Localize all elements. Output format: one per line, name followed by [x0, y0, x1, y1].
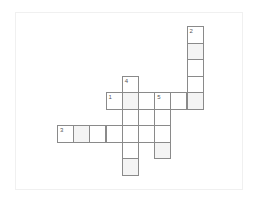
grid-cell[interactable]: [138, 109, 155, 127]
grid-cell[interactable]: [138, 92, 155, 110]
grid-cell[interactable]: [122, 158, 139, 176]
grid-cell[interactable]: [154, 125, 171, 143]
grid-cell[interactable]: [170, 92, 187, 110]
grid-cell[interactable]: [122, 125, 139, 143]
clue-number: 5: [157, 94, 160, 100]
clue-number: 2: [190, 28, 193, 34]
grid-cell[interactable]: [154, 109, 171, 127]
clue-number: 4: [125, 78, 128, 84]
grid-cell[interactable]: [138, 125, 155, 143]
grid-cell[interactable]: [187, 43, 204, 61]
grid-cell[interactable]: 5: [154, 92, 171, 110]
grid-cell[interactable]: [106, 125, 123, 143]
grid-cell[interactable]: [187, 59, 204, 77]
grid-cell[interactable]: [187, 92, 204, 110]
clue-number: 3: [60, 127, 63, 133]
grid-cell[interactable]: 1: [106, 92, 123, 110]
grid-cell[interactable]: [154, 142, 171, 160]
grid-cell[interactable]: [122, 92, 139, 110]
grid-cell[interactable]: [187, 76, 204, 94]
grid-cell[interactable]: [122, 109, 139, 127]
grid-cell[interactable]: [122, 142, 139, 160]
grid-cell[interactable]: 3: [57, 125, 74, 143]
clue-number: 1: [109, 94, 112, 100]
grid-cell[interactable]: [73, 125, 90, 143]
grid-cell[interactable]: [89, 125, 106, 143]
grid-cell[interactable]: 4: [122, 76, 139, 94]
grid-cell[interactable]: 2: [187, 26, 204, 44]
